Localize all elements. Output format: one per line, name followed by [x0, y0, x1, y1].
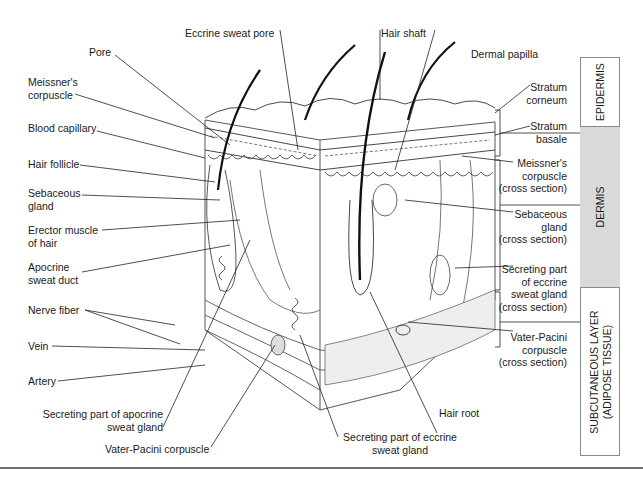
- label-sebaceous-gland: Sebaceous gland: [28, 187, 81, 212]
- layer-epidermis: EPIDERMIS: [580, 57, 620, 127]
- label-stratum-corneum: Stratum corneum: [500, 81, 567, 106]
- layer-subcutaneous: SUBCUTANEOUS LAYER (ADIPOSE TISSUE): [580, 287, 620, 456]
- label-blood-capillary: Blood capillary: [28, 122, 96, 135]
- label-vater-pacini: Vater-Pacini corpuscle: [105, 443, 209, 456]
- layer-epidermis-label: EPIDERMIS: [594, 63, 607, 121]
- layer-subcutaneous-label: SUBCUTANEOUS LAYER (ADIPOSE TISSUE): [588, 310, 613, 433]
- layer-dermis: DERMIS: [580, 127, 620, 287]
- label-hair-shaft: Hair shaft: [381, 27, 426, 40]
- label-hair-root: Hair root: [439, 407, 479, 420]
- label-vater-pacini-cross: Vater-Pacini corpuscle (cross section): [490, 331, 567, 369]
- label-meissners-corpuscle: Meissner's corpuscle: [28, 76, 78, 101]
- label-stratum-basale: Stratum basale: [500, 120, 567, 145]
- label-apocrine-sweat-duct: Apocrine sweat duct: [28, 261, 78, 286]
- bottom-divider: [0, 467, 643, 469]
- label-secreting-apocrine: Secreting part of apocrine sweat gland: [40, 408, 163, 433]
- label-secreting-eccrine: Secreting part of eccrine sweat gland: [340, 431, 460, 456]
- label-nerve-fiber: Nerve fiber: [28, 304, 79, 317]
- label-artery: Artery: [28, 375, 56, 388]
- label-eccrine-sweat-pore: Eccrine sweat pore: [185, 27, 274, 40]
- label-pore: Pore: [89, 46, 111, 59]
- label-eccrine-cross: Secreting part of eccrine sweat gland (c…: [490, 263, 567, 313]
- layer-dermis-label: DERMIS: [594, 187, 607, 228]
- label-vein: Vein: [28, 340, 48, 353]
- label-sebaceous-cross: Sebaceous gland (cross section): [490, 208, 567, 246]
- label-dermal-papilla: Dermal papilla: [471, 48, 538, 61]
- label-meissners-cross: Meissner's corpuscle (cross section): [490, 157, 567, 195]
- label-hair-follicle: Hair follicle: [28, 158, 79, 171]
- label-erector-muscle: Erector muscle of hair: [28, 224, 98, 249]
